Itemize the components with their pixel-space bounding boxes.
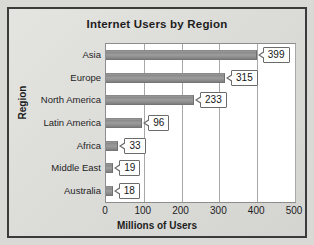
bar-value-callout: 315 — [231, 70, 258, 86]
bar-row: 19 — [106, 157, 295, 180]
chart-title: Internet Users by Region — [9, 18, 305, 30]
bar-row: 18 — [106, 179, 295, 202]
x-tick-label: 200 — [172, 205, 189, 216]
x-tick-label: 0 — [102, 205, 108, 216]
bar-row: 399 — [106, 44, 295, 67]
chart-frame: Internet Users by Region Region AsiaEuro… — [7, 7, 307, 238]
plot-area: 39931523396331918 — [105, 43, 296, 203]
y-axis-category-labels: AsiaEuropeNorth AmericaLatin AmericaAfri… — [27, 43, 101, 201]
bar-row: 315 — [106, 67, 295, 90]
y-axis-label-australia: Australia — [64, 184, 101, 195]
x-tick-label: 100 — [134, 205, 151, 216]
y-axis-label-middle-east: Middle East — [51, 162, 101, 173]
bar[interactable]: 315 — [106, 73, 225, 83]
bar-value-callout: 33 — [124, 138, 145, 154]
bar-row: 33 — [106, 134, 295, 157]
y-axis-label-north-america: North America — [41, 94, 101, 105]
x-axis-title: Millions of Users — [9, 220, 305, 231]
x-tick-label: 400 — [248, 205, 265, 216]
y-axis-title: Region — [17, 73, 28, 133]
chart-screenshot: Internet Users by Region Region AsiaEuro… — [0, 0, 314, 245]
x-tick-label: 300 — [210, 205, 227, 216]
bar[interactable]: 33 — [106, 141, 118, 151]
bar-value-callout: 19 — [119, 160, 140, 176]
bar-value-callout: 96 — [148, 115, 169, 131]
bar[interactable]: 399 — [106, 50, 257, 60]
bar-value-callout: 18 — [119, 183, 140, 199]
bar-value-callout: 399 — [263, 47, 290, 63]
chart-canvas: Internet Users by Region Region AsiaEuro… — [9, 9, 305, 236]
bars-layer: 39931523396331918 — [106, 44, 295, 202]
bar[interactable]: 19 — [106, 163, 113, 173]
y-axis-label-europe: Europe — [70, 71, 101, 82]
y-axis-label-africa: Africa — [77, 139, 101, 150]
bar-row: 96 — [106, 112, 295, 135]
bar[interactable]: 18 — [106, 186, 113, 196]
gridline — [295, 44, 296, 202]
bar[interactable]: 233 — [106, 95, 194, 105]
y-axis-label-asia: Asia — [83, 49, 101, 60]
bar-row: 233 — [106, 89, 295, 112]
bar-value-callout: 233 — [200, 92, 227, 108]
y-axis-label-latin-america: Latin America — [43, 117, 101, 128]
x-tick-label: 500 — [286, 205, 303, 216]
x-axis-tick-labels: 0100200300400500 — [105, 205, 294, 219]
bar[interactable]: 96 — [106, 118, 142, 128]
